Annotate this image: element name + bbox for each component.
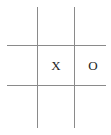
cell-top-left[interactable] <box>0 0 37 45</box>
cell-top-center[interactable] <box>38 0 74 45</box>
cell-bottom-right[interactable] <box>75 86 111 135</box>
tic-tac-toe-board: X O <box>0 0 111 135</box>
cell-mark-o: O <box>88 59 97 72</box>
cell-middle-center[interactable]: X <box>38 46 74 85</box>
cell-middle-left[interactable] <box>0 46 37 85</box>
cell-bottom-center[interactable] <box>38 86 74 135</box>
cell-top-right[interactable] <box>75 0 111 45</box>
cell-middle-right[interactable]: O <box>75 46 111 85</box>
cell-mark-x: X <box>51 59 60 72</box>
cell-bottom-left[interactable] <box>0 86 37 135</box>
